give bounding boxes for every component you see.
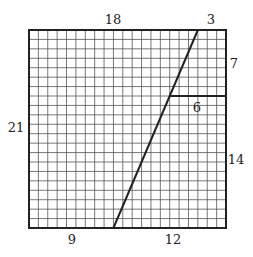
label-left-21: 21	[8, 121, 25, 134]
grid-diagram	[0, 0, 253, 257]
label-right-upper-7: 7	[230, 57, 238, 70]
label-top-right-3: 3	[207, 13, 215, 26]
label-segment-6: 6	[193, 101, 201, 114]
diagonal-cut-line	[113, 30, 197, 228]
label-bottom-left-9: 9	[68, 233, 76, 246]
label-bottom-right-12: 12	[165, 233, 182, 246]
label-top-left-18: 18	[105, 13, 122, 26]
grid-border	[29, 30, 226, 228]
label-right-lower-14: 14	[228, 153, 245, 166]
